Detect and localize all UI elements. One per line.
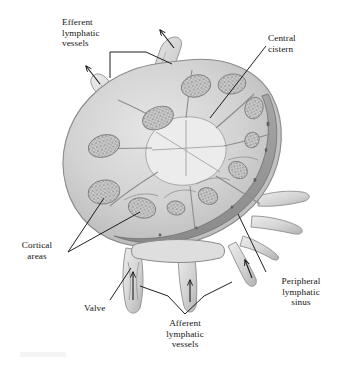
leader-afferent [140, 286, 185, 314]
right-vessel-bottom [240, 236, 279, 260]
right-vessel-upper [258, 191, 309, 206]
right-vessel-lower [251, 216, 302, 234]
lymph-node-diagram [0, 0, 339, 365]
label-efferent-lymphatic-vessels: Efferent lymphatic vessels [62, 17, 100, 49]
page-artifact-smudge [20, 352, 66, 357]
label-central-cistern: Central cistern [268, 33, 296, 54]
label-valve: Valve [84, 303, 105, 314]
label-cortical-areas: Cortical areas [6, 240, 68, 261]
afferent-chamber [132, 240, 225, 263]
label-peripheral-lymphatic-sinus: Peripheral lymphatic sinus [268, 276, 334, 308]
afferent-vessel-group [123, 240, 256, 314]
label-afferent-lymphatic-vessels: Afferent lymphatic vessels [152, 318, 218, 350]
